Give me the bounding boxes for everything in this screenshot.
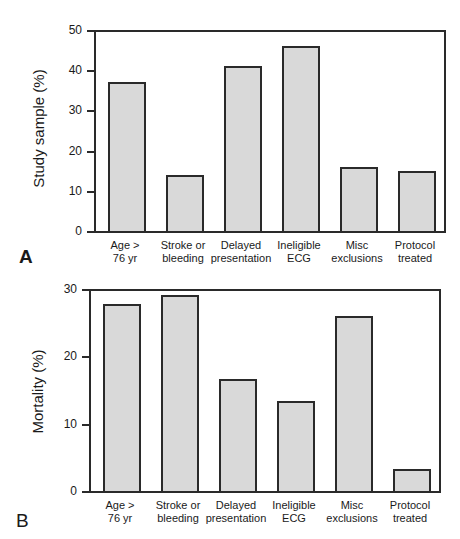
- bar: [219, 379, 257, 491]
- panel-letter: B: [16, 510, 29, 532]
- chart-panel-b: Mortality (%) 0102030 Age >76 yrStroke o…: [0, 0, 460, 539]
- bar: [161, 295, 199, 491]
- bar: [277, 401, 315, 491]
- bar: [393, 469, 431, 491]
- bar: [335, 316, 373, 491]
- x-tick-label: Protocoltreated: [375, 499, 445, 525]
- bar: [103, 304, 141, 491]
- y-tick-label: 20: [47, 349, 77, 363]
- plot-area: [89, 289, 441, 493]
- y-tick-label: 0: [47, 484, 77, 498]
- y-axis-label: Mortality (%): [29, 337, 46, 447]
- y-tick-label: 30: [47, 282, 77, 296]
- y-tick-label: 10: [47, 417, 77, 431]
